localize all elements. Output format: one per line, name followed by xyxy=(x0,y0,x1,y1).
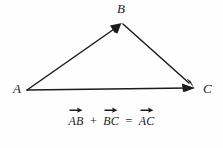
vector-bc-shaft xyxy=(123,24,189,83)
equation-term-ab-text: AB xyxy=(68,114,83,128)
vector-ab-shaft xyxy=(27,27,117,90)
vector-bc xyxy=(123,24,194,92)
vertex-label-c: C xyxy=(203,82,212,95)
equation-term-ac-text: AC xyxy=(139,114,155,128)
vector-ab xyxy=(27,23,122,90)
vector-equation: AB + BC = AC xyxy=(0,114,223,129)
vertex-label-b: B xyxy=(117,2,125,15)
vertex-label-a: A xyxy=(13,82,21,95)
equation-operator-equals: = xyxy=(123,114,136,129)
equation-term-ab: AB xyxy=(68,114,84,129)
vector-ac xyxy=(27,84,195,92)
equation-operator-plus: + xyxy=(87,114,100,129)
vector-ac-arrowhead xyxy=(182,84,195,92)
equation-term-ac: AC xyxy=(138,114,155,129)
equation-term-bc: BC xyxy=(103,114,120,129)
vector-ac-shaft xyxy=(27,88,189,90)
vector-addition-figure: A B C AB + BC = AC xyxy=(0,0,223,148)
equation-term-bc-text: BC xyxy=(103,114,119,128)
